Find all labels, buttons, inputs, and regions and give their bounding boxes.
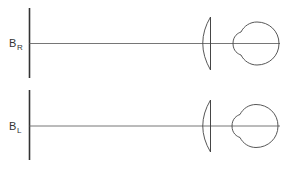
label-b-right-subscript: R [17,43,23,52]
optical-diagram: B R B L [0,0,291,170]
label-b-left-subscript: L [17,126,22,135]
label-b-left: B [9,120,16,132]
panel-left-eye: B L [9,90,280,160]
label-b-right: B [9,37,16,49]
panel-right-eye: B R [9,8,280,78]
